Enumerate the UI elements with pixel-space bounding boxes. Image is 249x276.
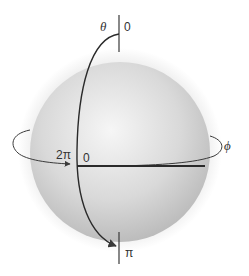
theta-end-label: π: [125, 246, 133, 260]
sphere-diagram: θ 0 π ϕ 2π 0: [0, 0, 249, 276]
phi-start-label: 0: [83, 151, 90, 165]
theta-start-label: 0: [124, 20, 131, 34]
theta-label: θ: [100, 19, 107, 34]
phi-label: ϕ: [224, 138, 231, 153]
phi-end-label: 2π: [56, 148, 71, 162]
